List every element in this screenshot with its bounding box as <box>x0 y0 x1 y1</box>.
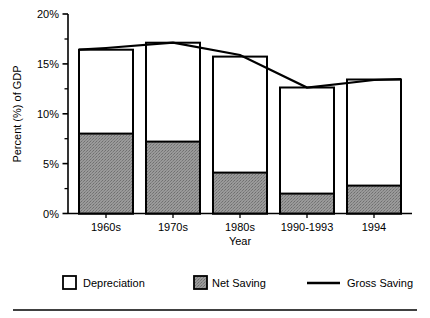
legend-swatch-depreciation-icon <box>63 276 76 289</box>
saving-gdp-stacked-bar-chart: 20% 15% 10% 5% 0% Percent (%) of GDP <box>0 0 430 318</box>
chart-legend: Depreciation Net Saving Gross Saving <box>63 276 413 289</box>
bar-net-saving-1970s <box>146 142 200 214</box>
y-tick-label-0: 0% <box>43 208 59 220</box>
legend-item-depreciation: Depreciation <box>63 276 145 289</box>
bar-net-saving-1990-1993 <box>280 194 334 214</box>
bar-group-1994 <box>347 80 401 214</box>
legend-swatch-net-saving-icon <box>194 276 207 289</box>
bar-net-saving-1960s <box>79 134 133 214</box>
x-tick-label-1994: 1994 <box>362 221 386 233</box>
legend-label-net-saving: Net Saving <box>212 277 266 289</box>
x-tick-label-1970s: 1970s <box>158 221 188 233</box>
bar-group-1980s <box>213 57 267 214</box>
bar-net-saving-1994 <box>347 186 401 214</box>
x-axis-title: Year <box>229 235 252 247</box>
legend-label-depreciation: Depreciation <box>83 277 145 289</box>
y-axis-title: Percent (%) of GDP <box>11 65 23 162</box>
y-tick-label-10: 10% <box>37 108 59 120</box>
y-tick-label-15: 15% <box>37 58 59 70</box>
x-tick-label-1980s: 1980s <box>225 221 255 233</box>
legend-label-gross-saving: Gross Saving <box>347 277 413 289</box>
y-tick-label-5: 5% <box>43 158 59 170</box>
x-tick-label-1960s: 1960s <box>91 221 121 233</box>
y-tick-label-20: 20% <box>37 8 59 20</box>
legend-item-net-saving: Net Saving <box>194 276 266 289</box>
bar-net-saving-1980s <box>213 173 267 214</box>
bar-group-1960s <box>79 50 133 214</box>
chart-figure: 20% 15% 10% 5% 0% Percent (%) of GDP <box>0 0 430 318</box>
bar-group-1970s <box>146 43 200 214</box>
x-tick-label-1990-1993: 1990-1993 <box>281 221 334 233</box>
bar-group-1990-1993 <box>280 88 334 214</box>
